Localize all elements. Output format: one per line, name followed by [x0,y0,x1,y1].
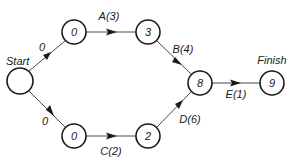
edge-label-start-top: 0 [39,41,46,53]
node-top0: 0 [62,20,86,44]
finish-label: Finish [257,54,286,66]
node-8: 8 [188,71,212,95]
node-2: 2 [136,124,160,148]
edge-start-to-top0 [29,41,65,71]
edge-label-C: C(2) [100,145,122,157]
node-value: 2 [144,130,151,142]
edge-label-B: B(4) [173,43,194,55]
edge-label-start-bottom: 0 [42,115,49,127]
node-value: 8 [197,77,204,89]
node-value: 0 [71,130,78,142]
diagram-svg: 0 3 8 9 0 2 Start Finish 0 A(3) B(4) E(1… [0,0,297,163]
node-value: 3 [145,26,152,38]
node-value: 9 [269,77,275,89]
node-start [7,68,33,94]
start-label: Start [6,55,30,67]
edge-label-E: E(1) [226,88,247,100]
edge-E [212,80,260,87]
edge-C [86,133,136,140]
node-3: 3 [136,20,160,44]
edge-label-D: D(6) [179,113,201,125]
node-9: 9 [260,71,284,95]
arrowhead-icon [172,57,182,65]
edge-label-A: A(3) [98,10,120,22]
edge-A [86,29,136,36]
network-diagram: 0 3 8 9 0 2 Start Finish 0 A(3) B(4) E(1… [0,0,297,163]
node-value: 0 [71,26,78,38]
node-bottom0: 0 [62,124,86,148]
